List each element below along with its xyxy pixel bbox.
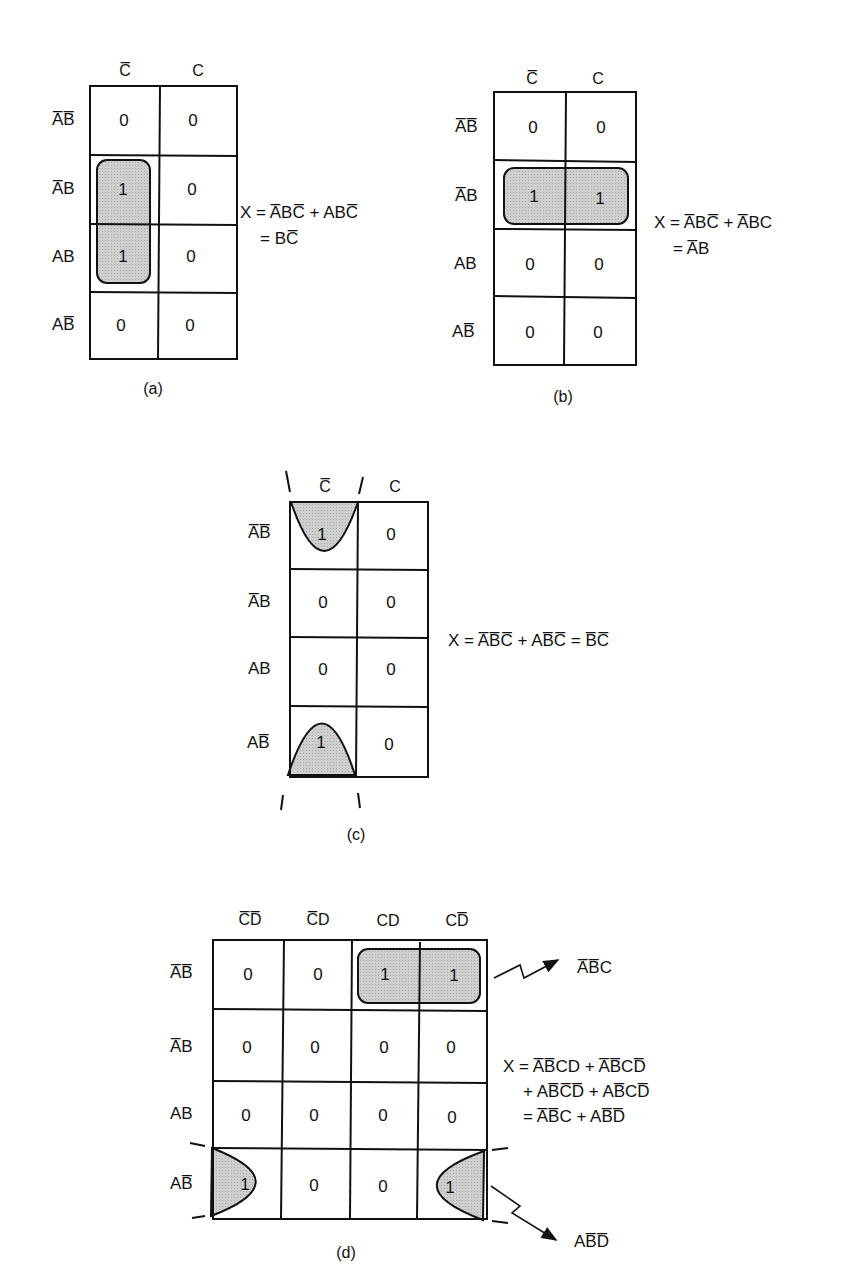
- cell-value: 1: [118, 247, 127, 266]
- cell-value: 0: [188, 111, 197, 130]
- panel-caption: (b): [553, 388, 573, 405]
- cell-value: 0: [447, 1108, 456, 1127]
- row-header: A̅B̅: [248, 523, 271, 542]
- row-header: AB: [52, 247, 75, 266]
- row-header: A̅B: [52, 179, 75, 198]
- cell-value: 0: [596, 118, 605, 137]
- cell-value: 0: [378, 1177, 387, 1196]
- row-header: AB̅: [247, 733, 270, 752]
- equation-line: + AB̅C̅D̅ + AB̅CD̅: [523, 1082, 650, 1101]
- cell-value: 0: [386, 660, 395, 679]
- cell-value: 1: [449, 966, 458, 985]
- column-header: C̅D̅: [238, 911, 261, 928]
- row-header: AB: [248, 659, 271, 678]
- column-header: C: [592, 70, 604, 87]
- cell-value: 0: [243, 965, 252, 984]
- row-header: AB̅: [452, 322, 475, 341]
- row-header: A̅B: [170, 1037, 193, 1056]
- equation-line: = A̅B: [673, 239, 709, 258]
- equation-line: X = A̅B̅C̅ + AB̅C̅ = B̅C̅: [448, 631, 609, 650]
- panel-caption: (c): [347, 826, 366, 843]
- cell-value: 1: [380, 965, 389, 984]
- equation-line: = A̅B̅C + AB̅D̅: [523, 1107, 625, 1126]
- kmap-grid: [494, 92, 636, 365]
- cell-value: 0: [313, 965, 322, 984]
- equation-line: X = A̅BC̅ + A̅BC: [654, 213, 772, 232]
- column-header: C̅: [319, 478, 331, 495]
- row-header: AB: [454, 254, 477, 273]
- row-header: AB: [170, 1104, 193, 1123]
- row-header: A̅B̅: [170, 963, 193, 982]
- row-header: A̅B: [248, 592, 271, 611]
- cell-value: 0: [446, 1038, 455, 1057]
- cell-value: 0: [525, 323, 534, 342]
- cell-value: 0: [528, 118, 537, 137]
- panel-caption: (a): [143, 380, 163, 397]
- row-header: A̅B̅: [52, 110, 75, 129]
- cell-value: 1: [316, 733, 325, 752]
- kmap-panel-d: C̅D̅ C̅D CD CD̅ A̅B̅ A̅B AB AB̅ 0 0 1 1 …: [170, 911, 650, 1261]
- kmap-panel-c: C̅ C A̅B̅ A̅B AB AB̅ 1 0 0 0 0 0 1 0 X =…: [247, 471, 609, 843]
- cell-value: 0: [309, 1176, 318, 1195]
- cell-value: 0: [310, 1038, 319, 1057]
- row-header: A̅B̅: [455, 117, 478, 136]
- cell-value: 1: [240, 1175, 249, 1194]
- cell-value: 0: [386, 593, 395, 612]
- kmap-panel-b: C̅ C A̅B̅ A̅B AB AB̅ 0 0 1 1 0 0 0 0 X =…: [452, 70, 772, 405]
- cell-value: 0: [379, 1038, 388, 1057]
- zigzag-arrow-icon: [494, 960, 558, 978]
- cell-value: 0: [309, 1106, 318, 1125]
- cell-value: 1: [529, 187, 538, 206]
- equation-line: X = A̅BC̅ + ABC̅: [240, 203, 358, 222]
- cell-value: 0: [593, 323, 602, 342]
- cell-value: 0: [318, 593, 327, 612]
- column-header: CD̅: [445, 912, 468, 929]
- cell-value: 0: [116, 316, 125, 335]
- cell-value: 0: [525, 255, 534, 274]
- row-header: A̅B: [455, 186, 478, 205]
- cell-value: 0: [242, 1038, 251, 1057]
- cell-value: 0: [318, 660, 327, 679]
- column-header: C̅D: [306, 911, 329, 928]
- cell-value: 0: [119, 111, 128, 130]
- cell-value: 0: [386, 525, 395, 544]
- column-header: C̅: [526, 70, 538, 87]
- equation-line: = BC̅: [260, 229, 298, 248]
- cell-value: 1: [317, 525, 326, 544]
- cell-value: 0: [594, 255, 603, 274]
- cell-value: 0: [187, 180, 196, 199]
- annotation-term: AB̅D̅: [574, 1232, 609, 1251]
- zigzag-arrow-icon: [491, 1186, 556, 1240]
- annotation-term: A̅B̅C: [577, 958, 612, 977]
- row-header: AB̅: [52, 315, 75, 334]
- karnaugh-map-figure: C̅ C A̅B̅ A̅B AB AB̅ 0 0 1 0 1 0 0 0 X =…: [0, 0, 856, 1280]
- cell-value: 0: [241, 1106, 250, 1125]
- cell-value: 0: [185, 316, 194, 335]
- cell-value: 0: [378, 1106, 387, 1125]
- column-header: CD: [376, 912, 399, 929]
- kmap-panel-a: C̅ C A̅B̅ A̅B AB AB̅ 0 0 1 0 1 0 0 0 X =…: [52, 62, 358, 397]
- cell-value: 0: [186, 247, 195, 266]
- column-header: C: [192, 62, 204, 79]
- cell-value: 1: [445, 1178, 454, 1197]
- cell-value: 0: [384, 735, 393, 754]
- column-header: C̅: [119, 62, 131, 79]
- row-header: AB̅: [170, 1174, 193, 1193]
- group-loop-right: [437, 1151, 484, 1220]
- column-header: C: [389, 478, 401, 495]
- cell-value: 1: [118, 180, 127, 199]
- equation-line: X = A̅B̅CD + A̅B̅CD̅: [503, 1057, 646, 1076]
- panel-caption: (d): [336, 1244, 356, 1261]
- cell-value: 1: [595, 189, 604, 208]
